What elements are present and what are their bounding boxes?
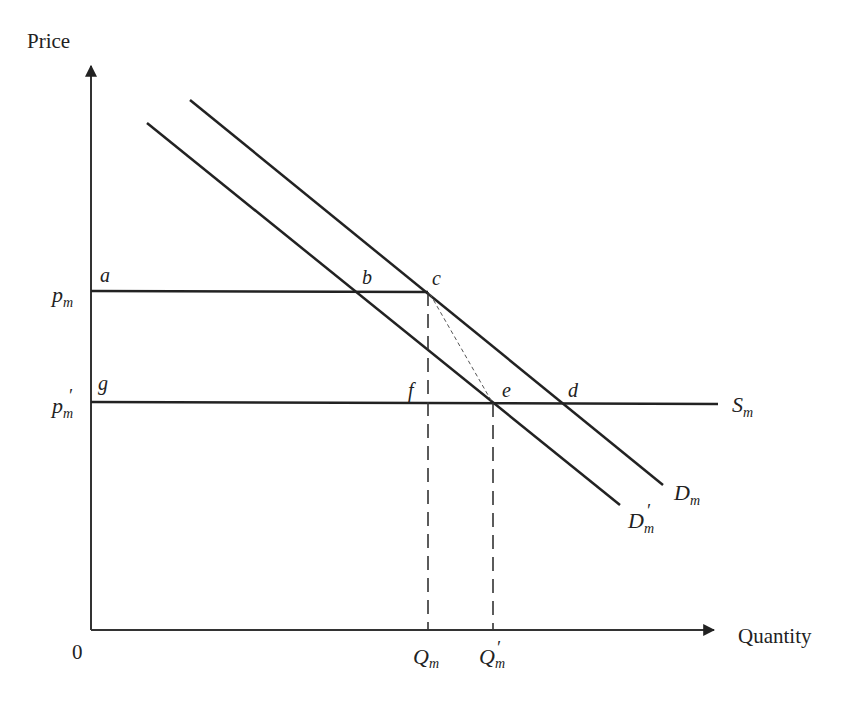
svg-text:Sm: Sm — [732, 392, 753, 420]
point-e-label: e — [502, 379, 511, 401]
pm-price-line — [91, 291, 428, 292]
point-b-label: b — [362, 266, 372, 288]
point-a-label: a — [100, 264, 110, 286]
supply-demand-diagram: Price Quantity 0 pm pm ′ Qm Qm ′ Sm Dm D… — [0, 0, 858, 702]
point-d-label: d — [568, 379, 579, 401]
x-axis-label: Quantity — [738, 624, 812, 648]
svg-text:′: ′ — [646, 501, 651, 521]
origin-label: 0 — [72, 640, 83, 664]
point-f-label: f — [408, 379, 416, 402]
svg-text:Dm: Dm — [627, 508, 654, 536]
supply-curve-sm — [91, 402, 718, 404]
svg-text:′: ′ — [68, 386, 73, 406]
dm-label: Dm — [673, 480, 700, 508]
diagram-canvas: Price Quantity 0 pm pm ′ Qm Qm ′ Sm Dm D… — [0, 0, 858, 702]
qm-prime-label: Qm ′ — [479, 638, 505, 671]
demand-curve-dm-prime — [147, 123, 620, 505]
point-g-label: g — [98, 372, 108, 395]
sm-label: Sm — [732, 392, 753, 420]
svg-text:Qm: Qm — [479, 644, 505, 671]
pm-label: pm — [50, 282, 73, 310]
y-axis-label: Price — [27, 29, 70, 53]
svg-text:′: ′ — [496, 638, 501, 658]
c-to-e-dashed-line — [430, 294, 492, 402]
svg-text:pm: pm — [50, 282, 73, 310]
qm-label: Qm — [413, 644, 439, 671]
point-c-label: c — [432, 267, 441, 289]
dm-prime-label: Dm ′ — [627, 501, 654, 536]
svg-text:Dm: Dm — [673, 480, 700, 508]
svg-text:Qm: Qm — [413, 644, 439, 671]
pm-prime-label: pm ′ — [50, 386, 73, 421]
